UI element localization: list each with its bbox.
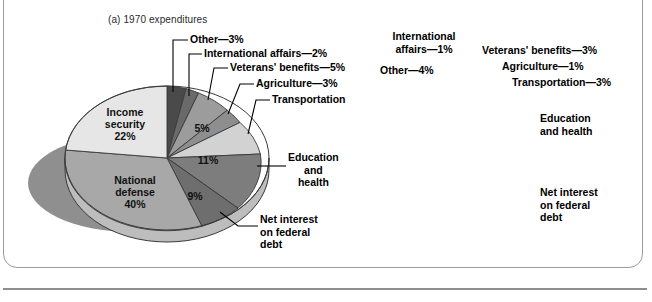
pie-a-stage: Income security 22% National defense 40%… — [42, 62, 292, 252]
pie-a-education-value: 11% — [192, 154, 224, 166]
pie-b-ni-l2: on federal — [540, 199, 598, 212]
pie-a-leader-lines — [42, 62, 292, 252]
panel-a-caption: (a) 1970 expenditures — [108, 14, 207, 25]
pie-a-defense-l2: defense — [94, 186, 176, 198]
pie-a-income-l1: Income — [86, 106, 164, 118]
pie-b-ni-l1: Net interest — [540, 186, 598, 199]
pie-b-callout-net-interest: Net interest on federal debt — [540, 186, 598, 224]
pie-b-intl-l1: International — [374, 30, 474, 43]
pie-b-edu-l1: Education — [540, 112, 593, 125]
pie-b-callout-transportation: Transportation—3% — [512, 76, 611, 89]
pie-a-income-l3: 22% — [86, 130, 164, 142]
pie-b-callout-other: Other—4% — [380, 64, 434, 77]
pie-b-callout-agriculture: Agriculture—1% — [502, 60, 584, 73]
pie-a-callout-international-affairs: International affairs—2% — [204, 47, 327, 60]
pie-chart-figure: (a) 1970 expenditures — [0, 0, 652, 302]
pie-b-callout-international-affairs: International affairs—1% — [374, 30, 474, 55]
pie-b-ni-l3: debt — [540, 211, 598, 224]
pie-b-intl-l2: affairs—1% — [374, 43, 474, 56]
pie-a-income-security-label: Income security 22% — [86, 106, 164, 142]
pie-a-income-l2: security — [86, 118, 164, 130]
pie-b-edu-l2: and health — [540, 125, 593, 138]
panel-1970: (a) 1970 expenditures — [0, 0, 326, 302]
pie-a-netinterest-value: 9% — [182, 190, 208, 202]
pie-a-callout-other: Other—3% — [190, 33, 244, 46]
pie-a-veterans-value: 5% — [188, 122, 216, 134]
pie-b-callout-veterans-benefits: Veterans' benefits—3% — [482, 44, 597, 57]
pie-a-ni-l2: on federal — [260, 226, 318, 239]
panel-2006: (b) 2006 expenditures — [326, 0, 652, 302]
pie-a-ni-l1: Net interest — [260, 213, 318, 226]
pie-a-defense-l1: National — [94, 174, 176, 186]
pie-a-defense-l3: 40% — [94, 198, 176, 210]
pie-a-ni-l3: debt — [260, 238, 318, 251]
pie-a-callout-net-interest: Net interest on federal debt — [260, 213, 318, 251]
pie-b-callout-education-health: Education and health — [540, 112, 593, 137]
pie-a-national-defense-label: National defense 40% — [94, 174, 176, 210]
